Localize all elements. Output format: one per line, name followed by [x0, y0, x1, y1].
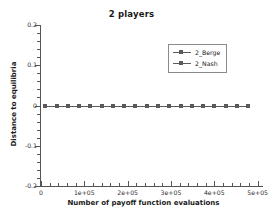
data-point-marker	[77, 104, 81, 108]
x-axis-spine	[41, 186, 263, 187]
x-tick-label: 2e+05	[108, 189, 148, 196]
data-point-marker	[145, 104, 149, 108]
chart-title: 2 players	[0, 9, 269, 19]
legend-square-marker-icon	[179, 50, 183, 54]
data-point-marker	[43, 104, 47, 108]
data-point-marker	[133, 104, 137, 108]
y-tick-label: 0.2	[13, 21, 37, 28]
x-tick-label: 4e+05	[194, 189, 234, 196]
y-tick-label: -0.2	[13, 182, 37, 189]
chart-legend: 2_Berge2_Nash	[168, 44, 227, 73]
y-axis-title: Distance to equilibria	[10, 44, 18, 164]
data-point-marker	[246, 104, 250, 108]
data-point-marker	[55, 104, 59, 108]
plot-area	[41, 25, 262, 186]
data-point-marker	[235, 104, 239, 108]
data-point-marker	[100, 104, 104, 108]
data-point-marker	[111, 104, 115, 108]
data-series	[41, 25, 262, 186]
data-point-marker	[88, 104, 92, 108]
data-point-marker	[201, 104, 205, 108]
data-point-marker	[179, 104, 183, 108]
data-point-marker	[224, 104, 228, 108]
data-point-marker	[212, 104, 216, 108]
legend-square-marker-icon	[179, 61, 183, 65]
chart-figure: 2 players 0.20.10-0.1-0.2 01e+052e+053e+…	[0, 0, 275, 219]
data-point-marker	[156, 104, 160, 108]
x-tick-label: 0	[21, 189, 61, 196]
x-tick-label: 5e+05	[238, 189, 275, 196]
legend-item[interactable]: 2_Berge	[169, 48, 226, 58]
data-point-marker	[167, 104, 171, 108]
legend-label: 2_Nash	[195, 59, 218, 69]
legend-item[interactable]: 2_Nash	[169, 59, 226, 69]
data-point-marker	[66, 104, 70, 108]
data-point-marker	[190, 104, 194, 108]
x-axis-title: Number of payoff function evaluations	[6, 199, 275, 207]
x-tick-label: 3e+05	[151, 189, 191, 196]
data-point-marker	[122, 104, 126, 108]
legend-label: 2_Berge	[195, 48, 220, 58]
x-tick-label: 1e+05	[64, 189, 104, 196]
